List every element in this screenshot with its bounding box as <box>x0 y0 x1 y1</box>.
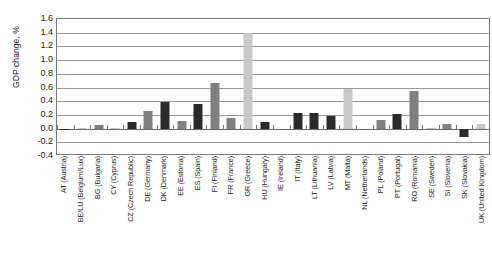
x-tick-label: SK (Slovakia) <box>461 156 468 199</box>
x-tick-label: BE/LU (Belgium/Lux) <box>77 156 84 222</box>
bar-slot <box>190 19 207 154</box>
y-tick-label: -0.4 <box>25 151 53 160</box>
bar[interactable] <box>343 89 352 129</box>
x-tick-label: FR (France) <box>228 156 235 194</box>
x-tick-label: PT (Portugal) <box>395 156 402 198</box>
bar[interactable] <box>327 116 336 129</box>
x-tick-mark <box>406 125 407 129</box>
x-label-slot: ES (Spain) <box>190 156 207 260</box>
x-tick-mark <box>206 125 207 129</box>
y-tick-label: 0.8 <box>25 68 53 77</box>
x-label-slot: SK (Slovakia) <box>457 156 474 260</box>
x-tick-label: GR (Greece) <box>244 156 251 197</box>
bar[interactable] <box>160 102 169 129</box>
x-tick-label: ES (Spain) <box>194 156 201 190</box>
y-tick-label: 0.4 <box>25 96 53 105</box>
bar[interactable] <box>310 113 319 129</box>
gdp-change-bar-chart: GDP change, % 1.61.41.21.00.80.60.40.20.… <box>0 0 492 261</box>
x-label-slot: SE (Sweden) <box>423 156 440 260</box>
bar[interactable] <box>194 104 203 129</box>
x-tick-mark <box>290 125 291 129</box>
x-tick-mark <box>157 125 158 129</box>
bar[interactable] <box>61 129 70 130</box>
bar-slot <box>323 19 340 154</box>
x-tick-label: UK (United Kingdom) <box>478 156 485 223</box>
x-label-slot: AT (Austria) <box>56 156 73 260</box>
bar[interactable] <box>144 111 153 128</box>
x-label-slot: NL (Netherlands) <box>356 156 373 260</box>
bar-series <box>57 19 489 154</box>
bar-slot <box>339 19 356 154</box>
bar[interactable] <box>410 91 419 129</box>
x-tick-mark <box>173 125 174 129</box>
x-tick-label: BG (Bulgaria) <box>94 156 101 199</box>
bar-slot <box>406 19 423 154</box>
x-tick-label: SE (Sweden) <box>428 156 435 198</box>
bar[interactable] <box>426 128 435 129</box>
x-label-slot: BG (Bulgaria) <box>89 156 106 260</box>
x-label-slot: HU (Hungary) <box>256 156 273 260</box>
bar[interactable] <box>127 122 136 128</box>
bar-slot <box>456 19 473 154</box>
x-tick-label: FI (Finland) <box>211 156 218 192</box>
bar[interactable] <box>443 124 452 129</box>
bar[interactable] <box>376 120 385 128</box>
bar-slot <box>373 19 390 154</box>
y-tick-label: 0.0 <box>25 123 53 132</box>
x-tick-mark <box>422 125 423 129</box>
x-tick-mark <box>339 125 340 129</box>
bar[interactable] <box>476 124 485 128</box>
bar[interactable] <box>77 128 86 129</box>
x-tick-mark <box>472 125 473 129</box>
x-tick-label: AT (Austria) <box>61 156 68 193</box>
y-tick-label: 1.0 <box>25 55 53 64</box>
x-axis-tick-labels: AT (Austria)BE/LU (Belgium/Lux)BG (Bulga… <box>56 156 490 260</box>
x-label-slot: LT (Lithuania) <box>306 156 323 260</box>
bar[interactable] <box>111 128 120 129</box>
bar[interactable] <box>210 83 219 129</box>
bar[interactable] <box>94 125 103 128</box>
x-label-slot: MT (Malta) <box>340 156 357 260</box>
x-label-slot: FI (Finland) <box>206 156 223 260</box>
bar[interactable] <box>227 118 236 128</box>
x-tick-mark <box>74 125 75 129</box>
plot-area <box>56 18 490 155</box>
bar-slot <box>240 19 257 154</box>
x-tick-mark <box>273 125 274 129</box>
x-tick-label: DK (Denmark) <box>161 156 168 201</box>
y-tick-label: 0.2 <box>25 109 53 118</box>
x-label-slot: SI (Slovenia) <box>440 156 457 260</box>
x-label-slot: UK (United Kingdom) <box>473 156 490 260</box>
x-label-slot: RO (Romania) <box>407 156 424 260</box>
x-tick-mark <box>240 125 241 129</box>
x-tick-label: EE (Estonia) <box>178 156 185 196</box>
x-label-slot: GR (Greece) <box>240 156 257 260</box>
x-label-slot: FR (France) <box>223 156 240 260</box>
bar-slot <box>223 19 240 154</box>
y-axis-title: GDP change, % <box>11 0 21 117</box>
bar-slot <box>74 19 91 154</box>
bar-slot <box>107 19 124 154</box>
bar-slot <box>157 19 174 154</box>
bar-slot <box>90 19 107 154</box>
x-tick-label: IE (Ireland) <box>278 156 285 191</box>
x-label-slot: PL (Poland) <box>373 156 390 260</box>
bar[interactable] <box>177 121 186 129</box>
bar-slot <box>57 19 74 154</box>
bar[interactable] <box>260 122 269 128</box>
x-tick-label: CZ (Czech Republic) <box>128 156 135 222</box>
bar[interactable] <box>244 33 253 129</box>
x-label-slot: CZ (Czech Republic) <box>123 156 140 260</box>
bar[interactable] <box>393 114 402 128</box>
y-axis-tick-labels: 1.61.41.21.00.80.60.40.20.0-0.2-0.4 <box>22 0 53 261</box>
bar-slot <box>273 19 290 154</box>
bar[interactable] <box>293 113 302 129</box>
x-label-slot: DK (Denmark) <box>156 156 173 260</box>
x-tick-mark <box>190 125 191 129</box>
x-tick-mark <box>57 125 58 129</box>
bar[interactable] <box>459 129 468 138</box>
bar-slot <box>140 19 157 154</box>
x-tick-mark <box>140 125 141 129</box>
x-label-slot: LV (Latvia) <box>323 156 340 260</box>
bar-slot <box>256 19 273 154</box>
